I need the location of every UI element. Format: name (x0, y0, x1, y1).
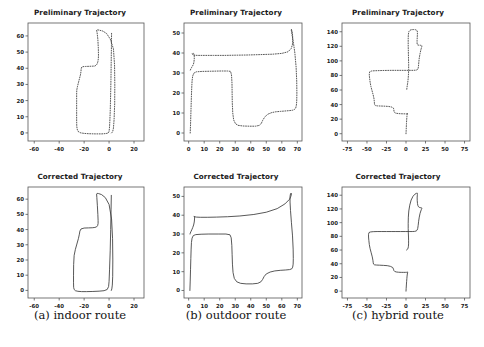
svg-text:50: 50 (16, 211, 24, 217)
svg-text:40: 40 (16, 227, 24, 233)
figure-panel-grid: Preliminary Trajectory 0102030405060-60-… (0, 0, 484, 347)
svg-text:10: 10 (172, 110, 180, 116)
svg-text:40: 40 (330, 261, 338, 267)
svg-text:20: 20 (330, 274, 338, 280)
plot-area-a-preliminary: 0102030405060-60-40-20020 (0, 19, 160, 157)
svg-text:50: 50 (441, 146, 449, 152)
svg-text:0: 0 (176, 130, 180, 136)
subplot-title: Corrected Trajectory (0, 172, 160, 183)
svg-text:20: 20 (16, 257, 24, 263)
svg-text:0: 0 (176, 287, 180, 293)
svg-text:-60: -60 (29, 146, 39, 152)
svg-text:60: 60 (16, 196, 24, 202)
svg-text:40: 40 (172, 50, 180, 56)
subplot-title: Preliminary Trajectory (0, 8, 160, 19)
subplot-c-corrected: Corrected Trajectory 020406080100120140-… (312, 172, 484, 314)
svg-text:60: 60 (278, 146, 286, 152)
plot-area-c-corrected: 020406080100120140-75-50-250255075 (312, 183, 484, 314)
svg-text:60: 60 (330, 87, 338, 93)
subplot-b-preliminary: Preliminary Trajectory 01020304050010203… (158, 8, 314, 158)
plot-area-c-preliminary: 020406080100120140-75-50-250255075 (312, 19, 484, 157)
subplot-a-preliminary: Preliminary Trajectory 0102030405060-60-… (0, 8, 160, 158)
svg-text:40: 40 (330, 102, 338, 108)
svg-text:30: 30 (16, 81, 24, 87)
svg-text:10: 10 (16, 114, 24, 120)
caption-a: (a) indoor route (0, 308, 160, 322)
caption-c: (c) hybrid route (312, 308, 484, 322)
svg-text:20: 20 (330, 116, 338, 122)
svg-text:-40: -40 (54, 146, 64, 152)
svg-text:50: 50 (172, 193, 180, 199)
svg-text:20: 20 (16, 98, 24, 104)
svg-text:60: 60 (16, 33, 24, 39)
svg-text:0: 0 (404, 146, 408, 152)
svg-text:40: 40 (16, 65, 24, 71)
subplot-title: Preliminary Trajectory (158, 8, 314, 19)
svg-text:100: 100 (327, 58, 339, 64)
svg-text:-50: -50 (362, 146, 372, 152)
svg-text:140: 140 (327, 29, 339, 35)
svg-text:0: 0 (334, 288, 338, 294)
subplot-title: Preliminary Trajectory (312, 8, 484, 19)
svg-text:120: 120 (327, 43, 339, 49)
panel-column-b: Preliminary Trajectory 01020304050010203… (158, 0, 314, 347)
svg-text:30: 30 (231, 146, 239, 152)
svg-text:-75: -75 (343, 146, 353, 152)
svg-text:30: 30 (172, 231, 180, 237)
svg-text:10: 10 (200, 146, 208, 152)
caption-b: (b) outdoor route (158, 308, 314, 322)
svg-text:50: 50 (16, 49, 24, 55)
trajectory-plot: 01020304050010203040506070 (158, 183, 314, 314)
svg-text:0: 0 (107, 146, 111, 152)
trajectory-plot: 020406080100120140-75-50-250255075 (312, 183, 484, 314)
panel-column-c: Preliminary Trajectory 02040608010012014… (312, 0, 484, 347)
svg-text:0: 0 (20, 287, 24, 293)
svg-text:80: 80 (330, 233, 338, 239)
subplot-c-preliminary: Preliminary Trajectory 02040608010012014… (312, 8, 484, 158)
svg-text:100: 100 (327, 220, 339, 226)
plot-area-b-corrected: 01020304050010203040506070 (158, 183, 314, 314)
svg-text:10: 10 (16, 272, 24, 278)
trajectory-plot: 01020304050010203040506070 (158, 19, 314, 157)
svg-text:0: 0 (334, 131, 338, 137)
svg-text:80: 80 (330, 72, 338, 78)
svg-text:20: 20 (172, 90, 180, 96)
svg-text:140: 140 (327, 192, 339, 198)
svg-text:20: 20 (216, 146, 224, 152)
svg-text:60: 60 (330, 247, 338, 253)
svg-text:75: 75 (461, 146, 469, 152)
svg-text:30: 30 (16, 242, 24, 248)
svg-text:50: 50 (263, 146, 271, 152)
panel-column-a: Preliminary Trajectory 0102030405060-60-… (0, 0, 160, 347)
svg-text:50: 50 (172, 30, 180, 36)
trajectory-plot: 0102030405060-60-40-20020 (0, 183, 160, 314)
subplot-a-corrected: Corrected Trajectory 0102030405060-60-40… (0, 172, 160, 314)
svg-text:20: 20 (172, 250, 180, 256)
svg-text:70: 70 (294, 146, 302, 152)
svg-text:20: 20 (130, 146, 138, 152)
svg-text:40: 40 (247, 146, 255, 152)
plot-area-b-preliminary: 01020304050010203040506070 (158, 19, 314, 157)
svg-text:0: 0 (20, 130, 24, 136)
svg-text:0: 0 (187, 146, 191, 152)
svg-text:25: 25 (422, 146, 430, 152)
trajectory-plot: 020406080100120140-75-50-250255075 (312, 19, 484, 157)
trajectory-plot: 0102030405060-60-40-20020 (0, 19, 160, 157)
svg-text:-20: -20 (79, 146, 89, 152)
subplot-title: Corrected Trajectory (158, 172, 314, 183)
subplot-title: Corrected Trajectory (312, 172, 484, 183)
subplot-b-corrected: Corrected Trajectory 0102030405001020304… (158, 172, 314, 314)
svg-text:-25: -25 (382, 146, 392, 152)
svg-text:120: 120 (327, 206, 339, 212)
plot-area-a-corrected: 0102030405060-60-40-20020 (0, 183, 160, 314)
svg-text:10: 10 (172, 269, 180, 275)
svg-text:30: 30 (172, 70, 180, 76)
svg-text:40: 40 (172, 212, 180, 218)
